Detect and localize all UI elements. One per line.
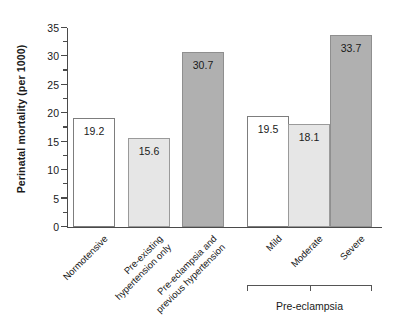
pre-eclampsia-group-bracket bbox=[247, 285, 372, 291]
y-tick-major bbox=[61, 112, 67, 113]
y-tick-label: 35 bbox=[47, 22, 59, 34]
pre-eclampsia-group-label: Pre-eclampsia bbox=[247, 300, 372, 312]
bar-value-label: 18.1 bbox=[289, 131, 329, 143]
x-axis-label-line1: Normotensive bbox=[61, 233, 110, 282]
bar: 30.7 bbox=[182, 52, 224, 227]
y-tick-major bbox=[61, 197, 67, 198]
x-axis-label-line1: Moderate bbox=[289, 233, 325, 269]
bar: 19.5 bbox=[247, 116, 289, 227]
bar: 19.2 bbox=[73, 118, 115, 227]
y-tick-label: 5 bbox=[53, 193, 59, 205]
y-axis-line bbox=[67, 28, 68, 227]
bar: 18.1 bbox=[288, 124, 330, 227]
y-tick-minor bbox=[63, 98, 67, 99]
y-tick-label: 30 bbox=[47, 50, 59, 62]
plot-area: 05101520253035 19.215.630.719.518.133.7 bbox=[67, 28, 382, 227]
y-tick-label: 0 bbox=[53, 221, 59, 233]
bar-value-label: 30.7 bbox=[183, 59, 223, 71]
x-axis-label: Severe bbox=[338, 233, 367, 262]
bracket-center-tick bbox=[310, 286, 311, 291]
y-tick-minor bbox=[63, 183, 67, 184]
y-tick-minor bbox=[63, 69, 67, 70]
bar: 15.6 bbox=[128, 138, 170, 227]
x-axis-label: Mild bbox=[264, 233, 284, 253]
x-axis-label-line1: Mild bbox=[264, 233, 284, 253]
y-tick-label: 25 bbox=[47, 79, 59, 91]
bar-chart: Perinatal mortality (per 1000) 051015202… bbox=[0, 0, 398, 333]
x-axis-line bbox=[67, 227, 382, 228]
bar-value-label: 19.5 bbox=[248, 123, 288, 135]
y-axis-title: Perinatal mortality (per 1000) bbox=[15, 19, 27, 219]
y-tick-minor bbox=[63, 155, 67, 156]
x-axis-label: Moderate bbox=[289, 233, 326, 270]
y-tick-major bbox=[61, 169, 67, 170]
bar-value-label: 19.2 bbox=[74, 125, 114, 137]
y-tick-minor bbox=[63, 41, 67, 42]
x-axis-label-line1: Severe bbox=[338, 233, 367, 262]
y-tick-label: 10 bbox=[47, 164, 59, 176]
y-tick-minor bbox=[63, 212, 67, 213]
y-tick-major bbox=[61, 141, 67, 142]
y-tick-major bbox=[61, 55, 67, 56]
y-tick-minor bbox=[63, 126, 67, 127]
bar-value-label: 15.6 bbox=[129, 145, 169, 157]
y-tick-label: 15 bbox=[47, 136, 59, 148]
bar-value-label: 33.7 bbox=[331, 42, 371, 54]
y-tick-label: 20 bbox=[47, 107, 59, 119]
bar: 33.7 bbox=[330, 35, 372, 227]
y-tick-major bbox=[61, 84, 67, 85]
y-tick-major bbox=[61, 226, 67, 227]
y-tick-major bbox=[61, 27, 67, 28]
x-axis-label: Normotensive bbox=[61, 233, 111, 283]
